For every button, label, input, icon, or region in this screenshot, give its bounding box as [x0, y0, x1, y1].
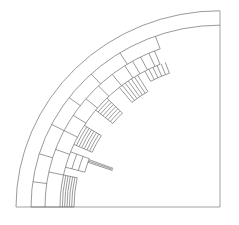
slot-bottom	[132, 92, 148, 103]
ring-divider	[33, 182, 47, 184]
slot-bottom	[74, 178, 77, 207]
slot-hatch-line	[69, 177, 72, 207]
ring-divider	[154, 51, 160, 64]
outer-arc	[31, 25, 220, 207]
ring-divider	[133, 61, 141, 73]
ring-divider	[56, 149, 70, 154]
ring-divider	[120, 53, 127, 64]
ring-divider	[98, 86, 108, 96]
ring-divider	[39, 154, 52, 158]
slot-bottom	[113, 113, 123, 123]
ring-divider	[52, 124, 64, 130]
slot-side	[145, 71, 151, 81]
ring-divider	[91, 74, 101, 84]
ring-divider	[49, 172, 64, 175]
slot-side	[165, 62, 169, 73]
ring-divider	[149, 53, 155, 66]
slot-hatch-line	[157, 66, 162, 77]
ring-inner-arc	[45, 49, 160, 207]
slot-hatch-line	[153, 67, 158, 77]
ring-divider	[125, 66, 133, 78]
ring-divider	[64, 131, 77, 138]
ring-divider	[155, 36, 160, 49]
ring-divider	[73, 115, 86, 123]
segmented-quarter-ring-diagram	[0, 0, 239, 225]
slot-blocks	[60, 62, 169, 207]
segmented-rings	[31, 36, 160, 207]
slot-side	[71, 152, 90, 159]
ring-divider	[86, 99, 97, 108]
slot-hatch-line	[72, 177, 75, 207]
ring-divider	[112, 74, 121, 85]
ring-divider	[141, 57, 148, 70]
slot-hatch-line	[78, 156, 83, 170]
pointer-lead	[88, 160, 113, 171]
slot-hatch-line	[161, 64, 165, 75]
slot-hatch-line	[110, 111, 120, 122]
slot-hatch-line	[149, 69, 154, 79]
slot-hatch-line	[72, 154, 77, 169]
ring-divider	[69, 98, 80, 106]
slot-side	[65, 167, 84, 172]
pointer-line	[88, 161, 112, 170]
